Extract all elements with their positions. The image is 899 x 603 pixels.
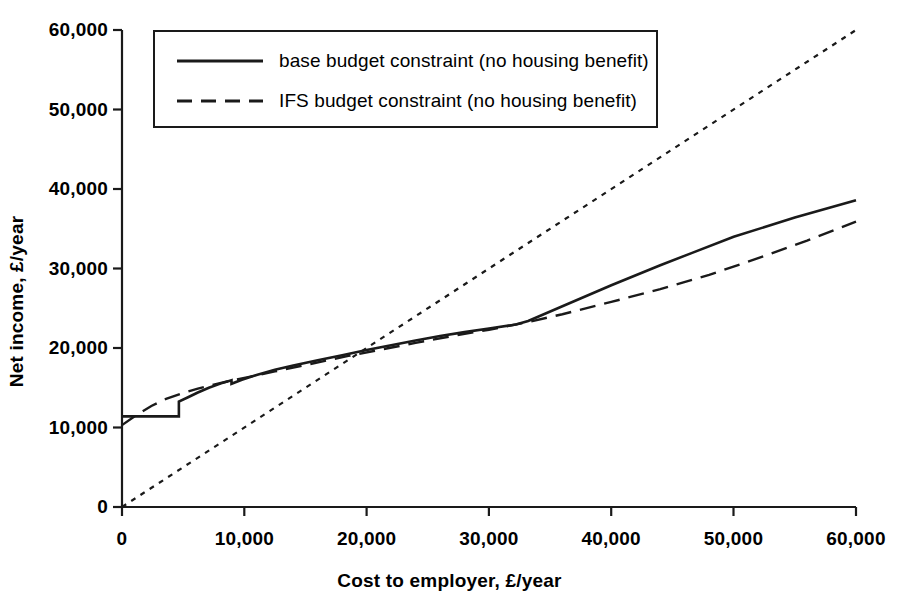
legend-item-base: base budget constraint (no housing benef…	[155, 46, 656, 76]
x-tick-label-60000: 60,000	[826, 528, 885, 550]
y-axis-ticks	[113, 30, 122, 507]
x-tick-label-50000: 50,000	[704, 528, 763, 550]
legend-label-ifs: IFS budget constraint (no housing benefi…	[279, 90, 637, 112]
legend-swatch-solid-line	[177, 53, 263, 69]
x-tick-label-0: 0	[117, 528, 128, 550]
x-tick-label-40000: 40,000	[582, 528, 641, 550]
x-axis-ticks	[122, 507, 856, 516]
chart-legend: base budget constraint (no housing benef…	[153, 30, 658, 128]
legend-item-ifs: IFS budget constraint (no housing benefi…	[155, 86, 656, 116]
y-axis-title: Net income, £/year	[0, 0, 34, 603]
x-tick-label-20000: 20,000	[337, 528, 396, 550]
x-tick-label-10000: 10,000	[215, 528, 274, 550]
x-tick-label-30000: 30,000	[459, 528, 518, 550]
legend-swatch-dashed-line	[177, 93, 263, 109]
chart-figure: base budget constraint (no housing benef…	[0, 0, 899, 603]
series-base-budget-constraint	[122, 200, 856, 416]
legend-label-base: base budget constraint (no housing benef…	[279, 50, 649, 72]
series-ifs-budget-constraint	[122, 222, 856, 426]
x-axis-title: Cost to employer, £/year	[0, 570, 899, 592]
